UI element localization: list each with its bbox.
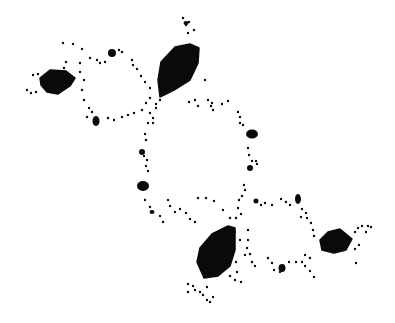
dot <box>367 225 369 227</box>
dot <box>209 301 211 303</box>
dot <box>300 216 302 218</box>
dot <box>247 229 249 231</box>
dot <box>197 197 199 199</box>
dot <box>235 217 237 219</box>
dot <box>244 254 246 256</box>
dot <box>279 271 281 273</box>
dot <box>118 49 120 51</box>
dot <box>206 286 208 288</box>
small-lobe <box>108 49 116 57</box>
dot <box>182 17 184 19</box>
dot <box>239 122 241 124</box>
dot <box>205 197 207 199</box>
dot <box>149 206 151 208</box>
dot <box>140 75 142 77</box>
small-lobe <box>295 194 301 204</box>
dot <box>301 261 303 263</box>
dot <box>313 276 315 278</box>
dot <box>149 97 151 99</box>
dot <box>32 74 34 76</box>
dot <box>251 160 253 162</box>
dot <box>152 122 154 124</box>
dot <box>238 199 240 201</box>
dot <box>256 163 258 165</box>
dot <box>204 79 206 81</box>
dot <box>240 213 242 215</box>
dot <box>207 99 209 101</box>
dot <box>144 199 146 201</box>
small-lobe <box>279 264 286 272</box>
dot <box>62 42 64 44</box>
dot <box>237 207 239 209</box>
dot <box>239 116 241 118</box>
dot <box>143 155 145 157</box>
dot <box>249 253 251 255</box>
dot <box>149 87 151 89</box>
dot <box>199 291 201 293</box>
dot <box>155 103 157 105</box>
dot <box>185 212 187 214</box>
dot <box>227 100 229 102</box>
dot <box>37 73 39 75</box>
dot <box>267 257 269 259</box>
dot <box>248 154 250 156</box>
small-lobe <box>150 210 155 214</box>
dot <box>243 184 245 186</box>
small-lobe <box>246 130 258 139</box>
dot <box>247 239 249 241</box>
dot <box>35 91 37 93</box>
dot <box>185 24 187 26</box>
dot <box>237 111 239 113</box>
dot <box>354 248 356 250</box>
dot <box>255 160 257 162</box>
dot <box>370 226 372 228</box>
dot <box>312 229 314 231</box>
dot <box>65 61 67 63</box>
dot <box>271 262 273 264</box>
dot <box>235 261 237 263</box>
dot <box>169 205 171 207</box>
dot <box>72 43 74 45</box>
dot <box>264 202 266 204</box>
dot <box>133 112 135 114</box>
dot <box>88 107 90 109</box>
dot <box>251 261 253 263</box>
dot <box>246 247 248 249</box>
dot <box>174 211 176 213</box>
dot <box>361 225 363 227</box>
dot <box>242 124 244 126</box>
dot <box>26 89 28 91</box>
dot <box>244 189 246 191</box>
small-lobe <box>247 165 253 171</box>
dot <box>280 198 282 200</box>
dot <box>192 285 194 287</box>
dot <box>159 215 161 217</box>
dot <box>188 101 190 103</box>
dot <box>30 92 32 94</box>
dot <box>239 239 241 241</box>
fractal-image <box>0 0 395 323</box>
dot <box>229 217 231 219</box>
dot <box>288 261 290 263</box>
dot <box>149 112 151 114</box>
dot <box>79 71 81 73</box>
dot <box>167 199 169 201</box>
dot <box>254 265 256 267</box>
dot <box>355 262 357 264</box>
dot <box>187 283 189 285</box>
small-lobe <box>139 149 145 155</box>
dot <box>83 99 85 101</box>
dot <box>132 64 134 66</box>
dot <box>365 231 367 233</box>
dot <box>234 279 236 281</box>
dot <box>91 111 93 113</box>
dot <box>206 299 208 301</box>
dot <box>141 109 143 111</box>
dot <box>152 117 154 119</box>
dot <box>96 59 98 61</box>
dot <box>240 281 242 283</box>
dot <box>285 201 287 203</box>
dot <box>213 200 215 202</box>
dot <box>127 114 129 116</box>
dot <box>136 68 138 70</box>
